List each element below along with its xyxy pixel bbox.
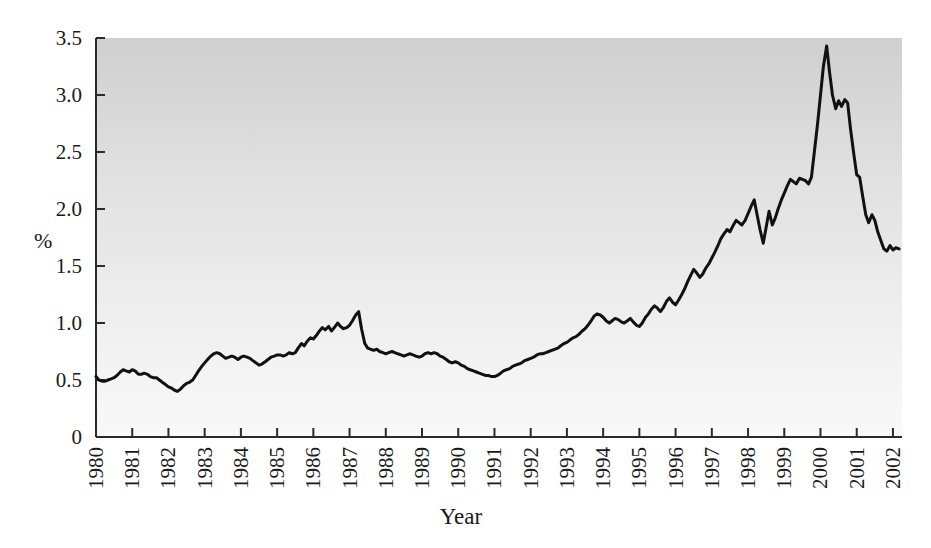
x-tick-label: 1993 xyxy=(555,447,579,489)
x-tick-label: 1983 xyxy=(193,447,217,489)
x-tick-label: 2002 xyxy=(881,447,905,489)
x-tick-label: 2000 xyxy=(808,447,832,489)
x-tick-label: 1997 xyxy=(700,447,724,489)
y-tick-label: 3.5 xyxy=(56,26,82,50)
y-axis-tick-labels: 00.51.01.52.02.53.03.5 xyxy=(56,26,82,449)
y-tick-label: 1.0 xyxy=(56,311,82,335)
y-axis-title: % xyxy=(34,228,52,253)
y-tick-label: 0.5 xyxy=(56,368,82,392)
x-tick-label: 1996 xyxy=(664,447,688,489)
x-tick-label: 1990 xyxy=(446,447,470,489)
x-tick-label: 1989 xyxy=(410,447,434,489)
x-tick-label: 1998 xyxy=(736,447,760,489)
x-axis-title: Year xyxy=(440,504,483,529)
plot-area-background xyxy=(96,38,902,437)
x-tick-label: 1991 xyxy=(482,447,506,489)
x-tick-label: 1999 xyxy=(772,447,796,489)
x-tick-label: 1987 xyxy=(338,447,362,489)
line-chart: 00.51.01.52.02.53.03.5 19801981198219831… xyxy=(0,0,931,548)
y-tick-label: 2.0 xyxy=(56,197,82,221)
x-tick-label: 1982 xyxy=(156,447,180,489)
x-tick-label: 1981 xyxy=(120,447,144,489)
x-tick-label: 1980 xyxy=(84,447,108,489)
x-tick-label: 1994 xyxy=(591,447,615,490)
x-tick-label: 1985 xyxy=(265,447,289,489)
x-tick-label: 1984 xyxy=(229,447,253,490)
y-tick-label: 3.0 xyxy=(56,83,82,107)
x-tick-label: 1995 xyxy=(627,447,651,489)
y-tick-label: 2.5 xyxy=(56,140,82,164)
x-tick-label: 1992 xyxy=(519,447,543,489)
chart-figure: 00.51.01.52.02.53.03.5 19801981198219831… xyxy=(0,0,931,548)
x-tick-label: 1986 xyxy=(301,447,325,489)
x-tick-label: 2001 xyxy=(845,447,869,489)
x-tick-label: 1988 xyxy=(374,447,398,489)
y-tick-label: 1.5 xyxy=(56,254,82,278)
y-tick-label: 0 xyxy=(72,425,83,449)
x-axis-tick-labels: 1980198119821983198419851986198719881989… xyxy=(84,447,905,490)
